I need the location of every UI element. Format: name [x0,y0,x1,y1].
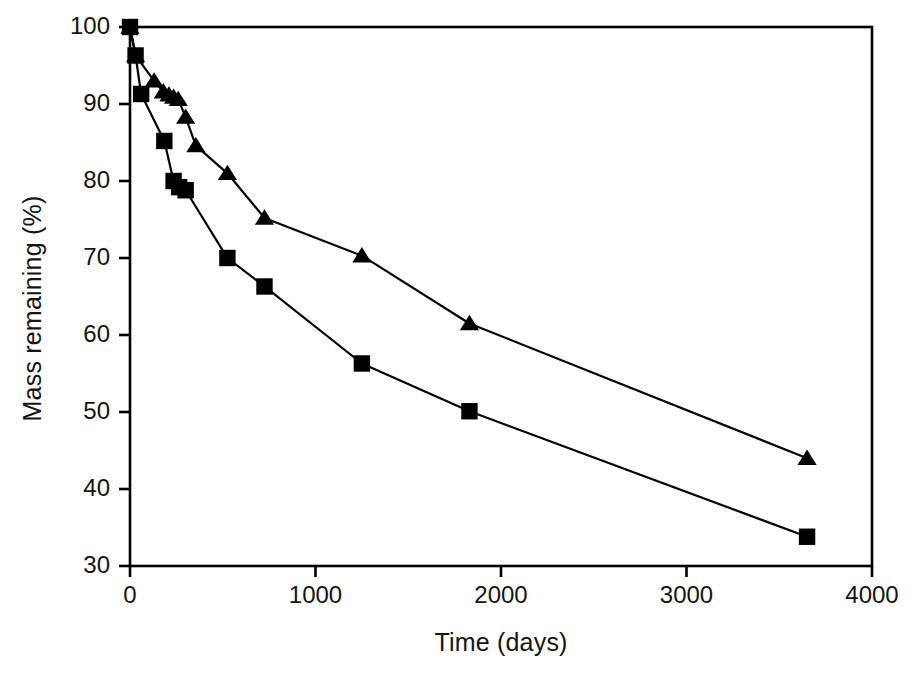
series-triangle [120,18,816,465]
data-point-square [461,403,477,419]
data-point-triangle [352,247,371,262]
series-line [130,27,807,537]
data-point-square [133,86,149,102]
data-series-group [120,18,816,545]
plot-area [0,0,915,682]
data-point-triangle [145,72,164,87]
series-line [130,27,807,458]
data-point-square [122,19,138,35]
data-point-square [156,133,172,149]
data-point-square [219,250,235,266]
chart-figure: Mass remaining (%) Time (days) 304050607… [0,0,915,682]
plot-frame [130,27,872,566]
data-point-square [127,47,143,63]
axis-tick-marks [119,27,872,577]
data-point-square [799,529,815,545]
data-point-square [354,355,370,371]
data-point-triangle [460,315,479,330]
data-point-square [177,182,193,198]
data-point-triangle [176,108,195,123]
series-square [122,19,815,545]
axes-frame [130,27,872,566]
data-point-square [256,278,272,294]
data-point-triangle [186,137,205,152]
data-point-triangle [797,450,816,465]
data-point-triangle [255,209,274,224]
